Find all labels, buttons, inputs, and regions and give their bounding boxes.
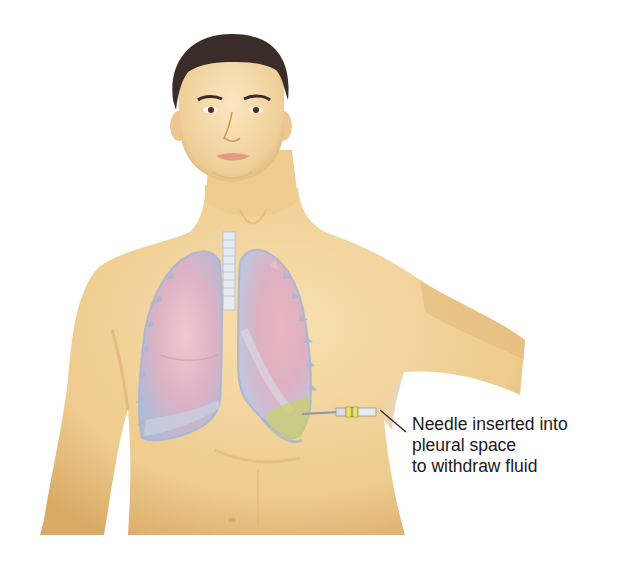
callout-line-1: Needle inserted into bbox=[412, 414, 568, 435]
trachea bbox=[223, 232, 235, 310]
callout-line-3: to withdraw fluid bbox=[412, 456, 568, 477]
thoracentesis-illustration: Needle inserted into pleural space to wi… bbox=[0, 0, 636, 563]
callout-line-2: pleural space bbox=[412, 435, 568, 456]
callout-label: Needle inserted into pleural space to wi… bbox=[412, 414, 568, 477]
head bbox=[170, 34, 292, 182]
